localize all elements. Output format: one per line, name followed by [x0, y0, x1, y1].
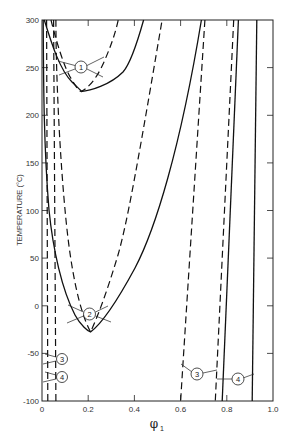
- svg-text:150: 150: [26, 159, 40, 168]
- svg-text:-50: -50: [27, 349, 39, 358]
- svg-text:4: 4: [236, 375, 240, 384]
- curve-4-left: [54, 20, 56, 401]
- svg-text:250: 250: [26, 64, 40, 73]
- label-3-right: 3: [191, 368, 203, 380]
- curve-4-right-solid: [252, 20, 257, 401]
- curves: [43, 20, 257, 401]
- phase-diagram-chart: 300 250 200 150 100 50 0 -50 -100 0 0.2 …: [0, 0, 295, 441]
- label-1: 1: [75, 61, 87, 73]
- svg-text:3: 3: [195, 370, 199, 379]
- svg-text:0: 0: [35, 302, 40, 311]
- leader-lines: [43, 57, 254, 382]
- svg-text:4: 4: [60, 373, 64, 382]
- svg-text:300: 300: [26, 16, 40, 25]
- svg-text:0.4: 0.4: [129, 405, 141, 414]
- curve-1-spinodal: [51, 20, 118, 92]
- x-axis-title: φ 1: [150, 417, 164, 432]
- svg-text:3: 3: [60, 355, 64, 364]
- label-4-left: 4: [57, 372, 68, 383]
- curve-2-spinodal: [56, 20, 162, 332]
- svg-text:-100: -100: [23, 397, 40, 406]
- svg-text:0.2: 0.2: [83, 405, 95, 414]
- svg-text:0.8: 0.8: [221, 405, 233, 414]
- curve-2-binodal: [43, 20, 201, 332]
- label-3-left: 3: [57, 354, 68, 365]
- svg-text:100: 100: [26, 207, 40, 216]
- y-axis-title: TEMPERATURE (°C): [15, 174, 24, 246]
- svg-text:φ: φ: [150, 417, 158, 431]
- svg-text:1.0: 1.0: [267, 405, 279, 414]
- svg-text:0.6: 0.6: [175, 405, 187, 414]
- label-4-right: 4: [232, 373, 244, 385]
- svg-text:2: 2: [87, 310, 91, 319]
- svg-text:1: 1: [160, 425, 164, 432]
- curve-3-right: [181, 20, 205, 401]
- curve-1-binodal: [44, 20, 143, 92]
- x-tick-labels: 0 0.2 0.4 0.6 0.8 1.0: [40, 405, 279, 414]
- label-2: 2: [84, 308, 96, 320]
- y-tick-labels: 300 250 200 150 100 50 0 -50 -100: [23, 16, 40, 406]
- svg-text:200: 200: [26, 111, 40, 120]
- svg-text:0: 0: [40, 405, 45, 414]
- svg-text:50: 50: [30, 254, 39, 263]
- curve-3-left: [47, 20, 48, 401]
- svg-text:1: 1: [79, 63, 83, 72]
